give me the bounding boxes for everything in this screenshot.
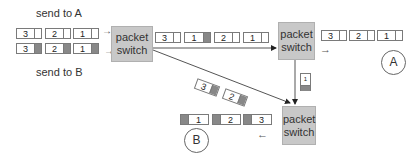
host-b: B	[184, 128, 209, 153]
packet-b1: 1	[73, 43, 99, 54]
link-packet-1a: 1	[243, 32, 269, 43]
out-a-arrow-icon: →	[320, 43, 331, 55]
packet-switch-3: packet switch	[282, 106, 316, 145]
packet-b2: 2	[45, 43, 71, 54]
out-a-packet-2: 2	[349, 30, 375, 41]
packet-switch-2: packet switch	[278, 22, 315, 60]
out-b-arrow-icon: ←	[257, 128, 268, 140]
packet-a2: 2	[45, 28, 71, 39]
packet-a3: 3	[16, 28, 42, 39]
packet-b3: 3	[16, 43, 42, 54]
out-b-packet-2: 2	[212, 114, 241, 125]
link-packet-1b: 1	[184, 32, 211, 43]
packet-switch-1: packet switch	[111, 26, 153, 62]
host-a: A	[381, 50, 406, 75]
packet-a1: 1	[73, 28, 99, 39]
vertical-packet-1b: 1	[300, 73, 311, 91]
out-a-packet-1: 1	[377, 30, 403, 41]
out-b-packet-1: 1	[180, 114, 209, 125]
link-packet-3a: 3	[155, 32, 181, 43]
out-b-packet-3: 3	[243, 114, 272, 125]
link-packet-2a: 2	[214, 32, 240, 43]
out-a-packet-3: 3	[321, 30, 347, 41]
send-to-a-label: send to A	[36, 7, 82, 19]
send-to-b-label: send to B	[36, 66, 82, 78]
